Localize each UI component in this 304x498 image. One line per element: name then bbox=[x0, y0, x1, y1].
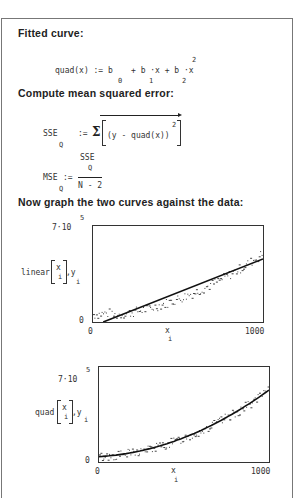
data-point bbox=[268, 387, 269, 388]
data-point bbox=[144, 311, 146, 312]
data-point bbox=[109, 309, 111, 310]
data-point bbox=[220, 278, 222, 279]
data-point bbox=[107, 316, 108, 317]
data-point bbox=[173, 304, 174, 305]
data-point bbox=[193, 434, 195, 435]
data-point bbox=[265, 391, 266, 392]
data-point bbox=[259, 256, 261, 257]
ylabel-tail: ,y bbox=[72, 408, 82, 417]
xmin-label: 0 bbox=[88, 327, 93, 336]
data-point bbox=[250, 258, 252, 259]
xlabel: x bbox=[165, 326, 170, 335]
data-point bbox=[196, 289, 198, 290]
data-point bbox=[189, 295, 190, 296]
data-point bbox=[209, 428, 211, 429]
data-point bbox=[186, 439, 187, 440]
data-point bbox=[116, 318, 118, 319]
data-point bbox=[156, 443, 157, 444]
mse-numerator-sub: Q bbox=[88, 164, 92, 172]
data-point bbox=[130, 454, 131, 455]
data-point bbox=[135, 455, 136, 456]
data-point bbox=[258, 394, 259, 395]
data-point bbox=[218, 419, 219, 420]
data-point bbox=[225, 414, 226, 415]
data-point bbox=[114, 313, 115, 314]
quad-sub1: 1 bbox=[149, 77, 153, 85]
data-point bbox=[256, 402, 258, 403]
data-point bbox=[128, 449, 129, 450]
xlabel: x bbox=[171, 466, 176, 475]
data-point bbox=[220, 416, 222, 417]
xlabel-sub: i bbox=[168, 335, 172, 343]
data-point bbox=[119, 314, 120, 315]
ylabel-tail: ,y bbox=[66, 268, 76, 277]
data-point bbox=[232, 410, 234, 411]
ymax-exp: 5 bbox=[86, 366, 90, 374]
data-point bbox=[192, 438, 193, 439]
fraction-bar bbox=[78, 177, 102, 178]
vectorize-arrow bbox=[100, 115, 180, 116]
sse-body: (y - quad(x)) bbox=[107, 131, 170, 140]
data-point bbox=[133, 316, 134, 317]
data-point bbox=[106, 313, 107, 314]
data-point bbox=[184, 293, 185, 294]
data-point bbox=[120, 451, 121, 452]
data-point bbox=[208, 431, 210, 432]
ymax-exp: 5 bbox=[80, 214, 84, 222]
data-point bbox=[212, 422, 213, 423]
plot-svg bbox=[99, 367, 269, 462]
data-point bbox=[183, 441, 184, 442]
heading-graph-curves: Now graph the two curves against the dat… bbox=[18, 196, 243, 208]
data-point bbox=[222, 279, 223, 280]
data-point bbox=[213, 284, 215, 285]
data-point bbox=[136, 450, 138, 451]
data-point bbox=[152, 309, 153, 310]
data-point bbox=[253, 260, 254, 261]
data-point bbox=[182, 301, 183, 302]
quad-sub0: 0 bbox=[118, 77, 122, 85]
linear-plot-area[interactable] bbox=[92, 225, 264, 323]
fit-curve bbox=[99, 390, 269, 457]
data-point bbox=[176, 299, 178, 300]
data-point bbox=[165, 449, 167, 450]
data-point bbox=[113, 459, 114, 460]
ylabel-arg: x bbox=[62, 403, 67, 412]
data-point bbox=[100, 316, 102, 317]
data-point bbox=[259, 393, 261, 394]
quad-plot-area[interactable] bbox=[98, 366, 270, 463]
data-point bbox=[163, 303, 164, 304]
data-point bbox=[170, 300, 172, 301]
sse-assign: := bbox=[78, 129, 88, 138]
data-point bbox=[105, 457, 106, 458]
data-point bbox=[93, 314, 95, 315]
sigma-symbol: Σ bbox=[92, 125, 100, 139]
data-point bbox=[158, 445, 159, 446]
data-point bbox=[240, 407, 241, 408]
data-point bbox=[113, 316, 115, 317]
ymax-label: 7·10 bbox=[58, 375, 77, 384]
quad-lhs: quad(x) := b bbox=[55, 66, 113, 75]
data-point bbox=[198, 436, 200, 437]
data-point bbox=[192, 298, 194, 299]
data-point bbox=[163, 447, 165, 448]
data-point bbox=[116, 459, 117, 460]
data-point bbox=[137, 311, 138, 312]
data-point bbox=[157, 310, 158, 311]
ylabel-arg-sub: i bbox=[58, 273, 62, 281]
xmax-label: 1000 bbox=[251, 467, 270, 476]
data-point bbox=[209, 289, 211, 290]
data-point bbox=[132, 449, 134, 450]
data-point bbox=[250, 407, 252, 408]
data-point bbox=[195, 436, 197, 437]
ylabel-arg-sub: i bbox=[64, 413, 68, 421]
data-point bbox=[179, 298, 180, 299]
ymax-label: 7·10 bbox=[52, 223, 71, 232]
data-point bbox=[187, 294, 188, 295]
data-point bbox=[263, 390, 264, 391]
data-point bbox=[136, 307, 137, 308]
data-point bbox=[115, 459, 116, 460]
data-point bbox=[212, 280, 214, 281]
data-point bbox=[149, 306, 151, 307]
data-point bbox=[200, 433, 201, 434]
sse-lhs: SSE bbox=[43, 129, 57, 138]
